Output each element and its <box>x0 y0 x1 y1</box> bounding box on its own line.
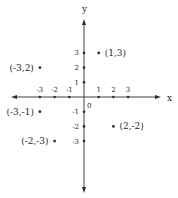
x-axis-left-arrow-icon <box>11 95 17 99</box>
x-tick-label: -2 <box>51 86 58 94</box>
y-tick-label: -1 <box>72 108 79 116</box>
y-tick-mark <box>83 52 86 55</box>
x-tick-mark <box>39 96 42 99</box>
x-tick-label: 3 <box>126 86 130 94</box>
x-tick-mark <box>97 96 100 99</box>
data-point-label: (2,-2) <box>119 121 143 131</box>
y-tick-mark <box>83 66 86 69</box>
data-point-label: (-2,-3) <box>21 136 48 146</box>
y-tick-label: -2 <box>72 123 79 131</box>
y-tick-label: 2 <box>75 64 79 72</box>
data-point-label: (-3,-1) <box>6 107 33 117</box>
y-axis-down-arrow-icon <box>82 187 86 193</box>
data-point <box>39 110 42 113</box>
x-tick-mark <box>53 96 56 99</box>
data-point-label: (1,3) <box>105 48 126 58</box>
origin-label: 0 <box>87 102 91 110</box>
coordinate-plane: xy0 -3-2-1123-3-2-1123 (1,3)(-3,2)(-3,-1… <box>0 0 178 198</box>
x-tick-label: -3 <box>36 86 43 94</box>
x-tick-label: -1 <box>66 86 73 94</box>
y-tick-label: 3 <box>75 49 79 57</box>
y-tick-mark <box>83 140 86 143</box>
data-point <box>112 125 115 128</box>
y-axis-up-arrow-icon <box>82 19 86 25</box>
x-axis-label: x <box>167 93 172 103</box>
data-point <box>39 66 42 69</box>
data-point-label: (-3,2) <box>10 63 34 73</box>
y-tick-mark <box>83 110 86 113</box>
x-axis-right-arrow-icon <box>155 95 161 99</box>
y-tick-mark <box>83 125 86 128</box>
x-tick-mark <box>127 96 130 99</box>
axes: xy0 <box>11 4 172 193</box>
x-tick-label: 1 <box>96 86 100 94</box>
y-tick-label: 1 <box>75 79 79 87</box>
data-point <box>97 52 100 55</box>
x-tick-mark <box>112 96 115 99</box>
x-tick-label: 2 <box>111 86 115 94</box>
data-point <box>53 140 56 143</box>
axis-ticks: -3-2-1123-3-2-1123 <box>36 49 130 145</box>
x-tick-mark <box>68 96 71 99</box>
y-tick-label: -3 <box>72 138 79 146</box>
y-axis-label: y <box>81 4 88 14</box>
y-tick-mark <box>83 81 86 84</box>
